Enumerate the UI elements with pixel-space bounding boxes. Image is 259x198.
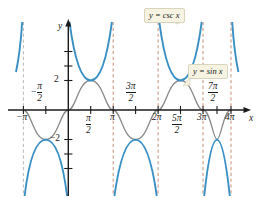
x-tick-label-pi-over-2: π 2	[86, 114, 91, 135]
fraction-denominator: 2	[86, 126, 91, 136]
csc-branch-down-1	[25, 140, 68, 196]
y-tick-label-neg2: −2	[50, 134, 60, 144]
y-axis-label: y	[58, 22, 62, 32]
x-tick-label-3pi: 3π	[197, 113, 207, 123]
csc-branch-up-partial-left	[16, 22, 22, 72]
fraction-denominator: 2	[174, 126, 179, 136]
fraction-numerator: π	[37, 82, 42, 92]
csc-branch-down-3	[204, 140, 230, 196]
csc-branch-up-partial-right	[232, 22, 238, 72]
fraction-numerator: 3π	[126, 82, 136, 92]
fraction-numerator: π	[86, 114, 91, 124]
y-tick-label-2: 2	[54, 75, 59, 85]
fraction-numerator: 5π	[172, 114, 182, 124]
x-tick-label-neg-pi: −π	[16, 113, 27, 123]
csc-branch-down-2	[114, 140, 156, 196]
x-tick-label-3pi-over-2: 3π 2	[126, 82, 136, 103]
cosecant-sine-graph-figure: x y 2 −2 −π π 2π 3π 4π − π 2 π 2 3π 2 5π…	[0, 0, 259, 198]
callout-sin: y = sin x	[188, 64, 228, 79]
fraction-denominator: 2	[128, 94, 133, 104]
fraction-numerator: 7π	[208, 82, 218, 92]
x-tick-label-7pi-over-2: 7π 2	[208, 82, 218, 103]
x-tick-label-5pi-over-2: 5π 2	[172, 114, 182, 135]
x-axis-label: x	[249, 114, 253, 124]
x-tick-label-4pi: 4π	[225, 113, 235, 123]
x-tick-label-neg-pi-over-2: − π 2	[31, 82, 42, 103]
callout-csc: y = csc x	[144, 8, 185, 23]
minus-sign: −	[31, 88, 36, 98]
x-tick-label-2pi: 2π	[152, 113, 162, 123]
csc-branch-up-1	[70, 22, 112, 81]
fraction-denominator: 2	[210, 94, 215, 104]
x-tick-label-pi: π	[110, 113, 115, 123]
fraction-denominator: 2	[37, 94, 42, 104]
